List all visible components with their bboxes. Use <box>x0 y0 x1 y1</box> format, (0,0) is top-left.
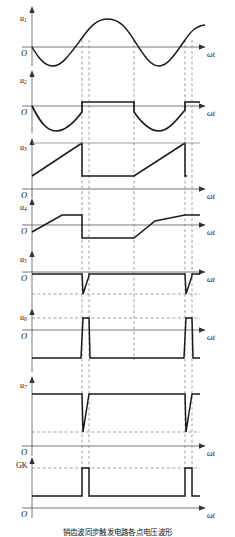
u1-axis-label: ωt <box>207 50 215 59</box>
u1-curve <box>32 19 205 66</box>
u5-axis-label: ωt <box>207 275 215 284</box>
u3-origin-label: O <box>21 190 27 200</box>
u5-curve <box>32 274 200 294</box>
u3-label: u3 <box>20 143 27 152</box>
u2-label: u2 <box>20 76 27 85</box>
gk-label: GK <box>16 461 28 470</box>
u4-axis-label: ωt <box>207 228 215 237</box>
gk-origin-label: O <box>21 509 27 519</box>
u4-origin-label: O <box>21 226 27 236</box>
gk-curve <box>32 468 200 496</box>
u5-origin-label: O <box>21 273 27 283</box>
level-lines-group <box>32 294 200 468</box>
u4-label: u4 <box>20 203 27 212</box>
u2-origin-label: O <box>21 107 27 117</box>
u7-axis-label: ωt <box>207 449 215 458</box>
u1-origin-label: O <box>21 48 27 58</box>
u1-label: u1 <box>20 14 27 23</box>
u6-curve <box>32 318 200 358</box>
timing-marks-group <box>82 40 192 470</box>
u7-origin-label: O <box>21 447 27 457</box>
u5-label: u5 <box>20 255 27 264</box>
u6-origin-label: O <box>21 331 27 341</box>
u3-axis-label: ωt <box>207 192 215 201</box>
u2-axis-label: ωt <box>207 109 215 118</box>
gk-axis-label: ωt <box>207 511 215 520</box>
figure-caption: 销齿波同步触发电路各点电压波形 <box>0 526 235 537</box>
u4-curve <box>32 215 200 238</box>
axes-group <box>22 8 205 518</box>
u3-curve <box>32 143 187 176</box>
u6-label: u6 <box>20 313 27 322</box>
u6-axis-label: ωt <box>207 333 215 342</box>
u7-label: u7 <box>20 381 27 390</box>
u7-curve <box>32 394 200 432</box>
